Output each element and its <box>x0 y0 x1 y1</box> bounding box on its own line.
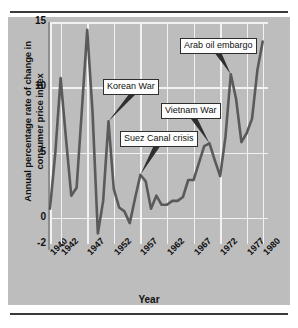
annotation-callout: Vietnam War <box>161 103 221 119</box>
annotation-callout: Arab oil embargo <box>180 38 257 54</box>
chart-figure: Annual percentage rate of change in cons… <box>0 0 298 328</box>
annotation-pointer <box>140 145 161 175</box>
annotation-pointer <box>108 93 136 121</box>
annotation-callout: Korean War <box>103 79 159 95</box>
annotation-callout: Suez Canal crisis <box>120 131 198 147</box>
annotation-pointer <box>214 52 231 74</box>
